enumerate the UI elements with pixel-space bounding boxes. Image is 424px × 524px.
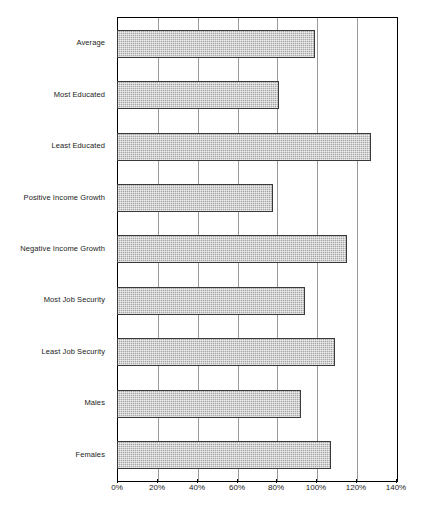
bar[interactable] [117, 338, 335, 366]
category-tick-2: Least Educated [0, 120, 112, 171]
category-tick-5: Most Job Security [0, 274, 112, 325]
bar[interactable] [117, 81, 279, 109]
category-tick-3: Positive Income Growth [0, 171, 112, 222]
bar-row [118, 172, 397, 223]
category-tick-8: Females [0, 429, 112, 480]
bar-row [118, 224, 397, 275]
bar-chart: Average Most Educated Least Educated Pos… [0, 0, 424, 524]
category-axis: Average Most Educated Least Educated Pos… [0, 17, 112, 480]
bar-row [118, 378, 397, 429]
bar-row [118, 69, 397, 120]
bar[interactable] [117, 287, 305, 315]
value-axis-tick-label: 60% [229, 483, 245, 492]
value-axis-tick-label: 20% [149, 483, 165, 492]
value-axis-tick-label: 80% [268, 483, 284, 492]
bar[interactable] [117, 390, 301, 418]
bar-row [118, 327, 397, 378]
category-tick-7: Males [0, 377, 112, 428]
bar-row [118, 430, 397, 481]
category-tick-1: Most Educated [0, 68, 112, 119]
category-tick-4: Negative Income Growth [0, 223, 112, 274]
value-axis-tick-label: 100% [306, 483, 326, 492]
bars-layer [118, 18, 397, 481]
category-label: Least Job Security [42, 347, 106, 356]
category-label: Average [77, 38, 106, 47]
category-label: Most Educated [54, 90, 105, 99]
bar[interactable] [117, 235, 347, 263]
bar-row [118, 275, 397, 326]
bar-row [118, 121, 397, 172]
category-label: Positive Income Growth [24, 193, 105, 202]
category-label: Males [84, 398, 105, 407]
bar[interactable] [117, 133, 371, 161]
value-axis-tick-label: 140% [386, 483, 406, 492]
category-tick-6: Least Job Security [0, 326, 112, 377]
value-axis-tick-label: 40% [189, 483, 205, 492]
bar-row [118, 18, 397, 69]
category-label: Negative Income Growth [20, 244, 105, 253]
value-axis: 0%20%40%60%80%100%120%140% [117, 483, 398, 505]
bar[interactable] [117, 30, 315, 58]
category-label: Least Educated [51, 141, 105, 150]
value-axis-tick-label: 0% [111, 483, 123, 492]
bar[interactable] [117, 184, 273, 212]
category-label: Most Job Security [44, 295, 105, 304]
value-axis-tick-label: 120% [346, 483, 366, 492]
category-label: Females [76, 450, 105, 459]
category-tick-0: Average [0, 17, 112, 68]
plot-area [117, 17, 398, 482]
bar[interactable] [117, 441, 331, 469]
